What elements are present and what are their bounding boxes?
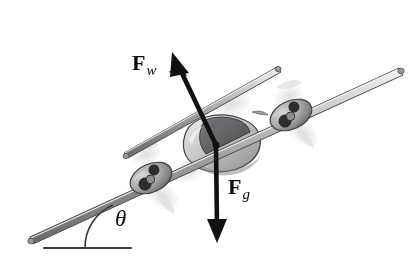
gravity-force-symbol: F xyxy=(228,174,241,199)
wing-force-subscript: w xyxy=(146,62,156,78)
diagram-canvas xyxy=(0,0,416,267)
wing-force-label: Fw xyxy=(132,52,156,78)
incline-angle-label: θ xyxy=(115,207,126,230)
physics-diagram-figure: Fw Fg θ xyxy=(0,0,416,267)
gravity-force-subscript: g xyxy=(242,186,250,202)
gravity-force-label: Fg xyxy=(228,176,250,202)
wing-force-symbol: F xyxy=(132,50,145,75)
